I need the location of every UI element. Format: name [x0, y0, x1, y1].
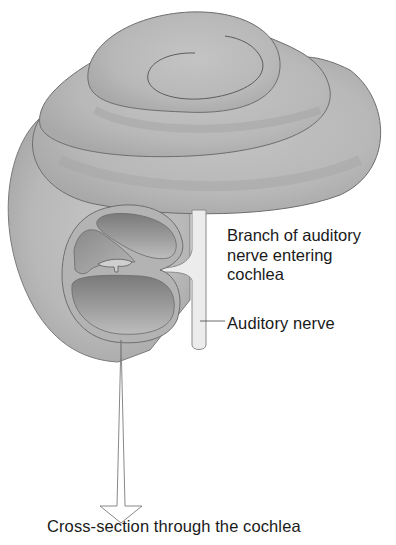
caption-cross-section: Cross-section through the cochlea — [47, 517, 301, 536]
label-auditory-nerve: Auditory nerve — [227, 314, 335, 333]
label-branch-line-3: cochlea — [227, 265, 361, 285]
down-arrow-icon — [100, 340, 142, 523]
label-branch-line-2: nerve entering — [227, 246, 361, 266]
label-branch-line-1: Branch of auditory — [227, 226, 361, 246]
cochlea-apex — [88, 12, 280, 113]
label-branch-of-auditory-nerve: Branch of auditory nerve entering cochle… — [227, 226, 361, 285]
